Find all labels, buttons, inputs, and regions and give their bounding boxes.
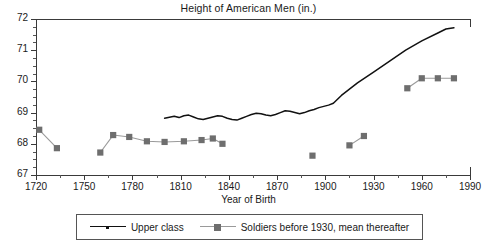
x-axis-tick: [36, 175, 37, 180]
x-axis-label: 1900: [305, 181, 345, 192]
y-axis-label: 72: [0, 12, 28, 23]
series-marker: [419, 75, 425, 81]
y-axis-minor-tick: [33, 58, 36, 59]
legend-swatch-square-icon: [200, 222, 236, 232]
series-marker: [361, 133, 367, 139]
x-axis-label: 1750: [64, 181, 104, 192]
legend-swatch-line-icon: [90, 222, 126, 232]
x-axis-label: 1780: [112, 181, 152, 192]
y-axis-tick: [31, 144, 36, 145]
x-axis-minor-tick: [108, 175, 109, 178]
series-marker: [210, 135, 216, 141]
y-axis-label: 67: [0, 168, 28, 179]
series-marker: [126, 134, 132, 140]
x-axis-minor-tick: [446, 175, 447, 178]
y-axis-minor-tick: [33, 42, 36, 43]
x-axis-label: 1960: [402, 181, 442, 192]
y-axis-minor-tick: [33, 152, 36, 153]
y-axis-label: 69: [0, 106, 28, 117]
y-axis-minor-tick: [33, 167, 36, 168]
y-axis-label: 68: [0, 137, 28, 148]
x-axis-minor-tick: [349, 175, 350, 178]
series-layer: [0, 0, 497, 247]
y-axis-minor-tick: [33, 89, 36, 90]
x-axis-tick: [470, 175, 471, 180]
y-axis-minor-tick: [33, 35, 36, 36]
series-marker: [346, 142, 352, 148]
chart-legend: Upper class Soldiers before 1930, mean t…: [76, 214, 423, 240]
series-line: [165, 28, 454, 120]
y-axis-label: 70: [0, 74, 28, 85]
x-axis-label: 1810: [161, 181, 201, 192]
x-axis-minor-tick: [157, 175, 158, 178]
x-axis-tick: [84, 175, 85, 180]
chart-container: Height of American Men (in.) Year of Bir…: [0, 0, 497, 247]
x-axis-minor-tick: [301, 175, 302, 178]
series-marker: [36, 127, 42, 133]
legend-label-upper-class: Upper class: [131, 222, 184, 233]
x-axis-tick: [277, 175, 278, 180]
series-marker: [54, 145, 60, 151]
series-marker: [435, 75, 441, 81]
x-axis-tick: [229, 175, 230, 180]
legend-label-soldiers: Soldiers before 1930, mean thereafter: [241, 222, 409, 233]
y-axis-minor-tick: [33, 74, 36, 75]
y-axis-label: 71: [0, 43, 28, 54]
y-axis-tick: [31, 81, 36, 82]
series-marker: [404, 85, 410, 91]
x-axis-minor-tick: [205, 175, 206, 178]
x-axis-label: 1990: [450, 181, 490, 192]
series-marker: [144, 138, 150, 144]
series-marker: [451, 75, 457, 81]
series-marker: [181, 138, 187, 144]
x-axis-label: 1720: [16, 181, 56, 192]
series-marker: [97, 149, 103, 155]
x-axis-minor-tick: [253, 175, 254, 178]
x-axis-minor-tick: [60, 175, 61, 178]
legend-entry-upper-class: Upper class: [90, 222, 184, 233]
series-marker: [219, 141, 225, 147]
y-axis-minor-tick: [33, 128, 36, 129]
y-axis-minor-tick: [33, 136, 36, 137]
x-axis-tick: [132, 175, 133, 180]
x-axis-label: 1840: [209, 181, 249, 192]
y-axis-minor-tick: [33, 66, 36, 67]
series-marker: [110, 132, 116, 138]
y-axis-minor-tick: [33, 97, 36, 98]
x-axis-tick: [325, 175, 326, 180]
series-marker: [198, 137, 204, 143]
x-axis-title: Year of Birth: [0, 194, 497, 205]
series-marker: [161, 139, 167, 145]
y-axis-minor-tick: [33, 27, 36, 28]
x-axis-minor-tick: [398, 175, 399, 178]
x-axis-label: 1870: [257, 181, 297, 192]
x-axis-tick: [422, 175, 423, 180]
y-axis-tick: [31, 50, 36, 51]
y-axis-minor-tick: [33, 105, 36, 106]
y-axis-tick: [31, 19, 36, 20]
y-axis-minor-tick: [33, 120, 36, 121]
series-marker: [309, 153, 315, 159]
x-axis-tick: [181, 175, 182, 180]
y-axis-minor-tick: [33, 159, 36, 160]
legend-entry-soldiers: Soldiers before 1930, mean thereafter: [200, 222, 409, 233]
y-axis-tick: [31, 113, 36, 114]
x-axis-label: 1930: [354, 181, 394, 192]
x-axis-tick: [374, 175, 375, 180]
series-line: [407, 78, 454, 88]
